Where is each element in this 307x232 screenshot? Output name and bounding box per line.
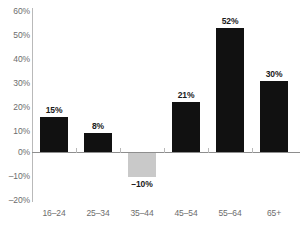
x-category-label-55-64: 55–64 — [208, 208, 252, 218]
x-category-label-35-44: 35–44 — [120, 208, 164, 218]
y-tick-label: 60% — [2, 7, 30, 16]
y-tick-label: 10% — [2, 127, 30, 136]
bar-45-54[interactable] — [172, 102, 200, 152]
bar-value-label: 30% — [252, 69, 296, 79]
bar-55-64[interactable] — [216, 28, 244, 152]
bar-value-label: 15% — [32, 105, 76, 115]
bar-value-label: 21% — [164, 90, 208, 100]
y-tick-label: 50% — [2, 31, 30, 40]
bar-16-24[interactable] — [40, 117, 68, 152]
y-tick-label: 20% — [2, 103, 30, 112]
y-tick-label: 40% — [2, 55, 30, 64]
y-axis-tick-labels: 60% 50% 40% 30% 20% 10% 0% –10% –20% — [0, 0, 30, 232]
x-category-label-65-plus: 65+ — [252, 208, 296, 218]
x-category-label-25-34: 25–34 — [76, 208, 120, 218]
plot-area: 15% 8% –10% 21% 52% 30% 16–24 25–34 35–4… — [32, 0, 300, 232]
bar-value-label: 8% — [76, 121, 120, 131]
bar-65-plus[interactable] — [260, 81, 288, 152]
y-tick-label: –20% — [2, 196, 30, 205]
y-tick-label: –10% — [2, 172, 30, 181]
y-tick-label: 0% — [2, 148, 30, 157]
x-category-label-45-54: 45–54 — [164, 208, 208, 218]
bar-25-34[interactable] — [84, 133, 112, 152]
bar-value-label: 52% — [208, 16, 252, 26]
bar-35-44[interactable] — [128, 153, 156, 177]
bar-value-label: –10% — [120, 179, 164, 189]
bar-chart: 60% 50% 40% 30% 20% 10% 0% –10% –20% 15%… — [0, 0, 307, 232]
y-tick-label: 30% — [2, 79, 30, 88]
x-category-label-16-24: 16–24 — [32, 208, 76, 218]
